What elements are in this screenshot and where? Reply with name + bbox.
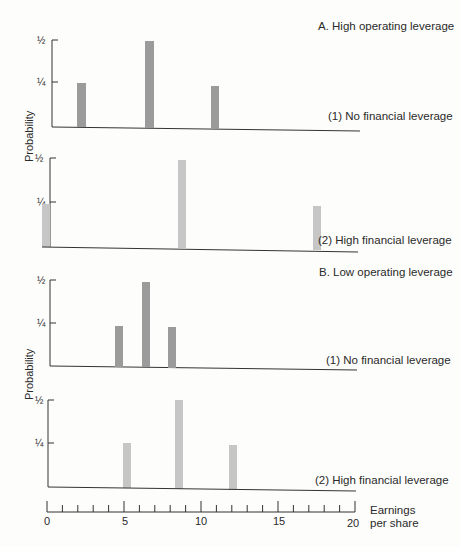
bar	[123, 443, 131, 488]
bar	[168, 327, 176, 368]
x-axis-label-line2: per share	[370, 517, 419, 529]
bar	[178, 160, 186, 248]
y-label-half: ½	[35, 395, 44, 406]
group-b-title: B. Low operating leverage	[319, 266, 453, 278]
panel-b1: ½ ¼ (1) No financial leverage	[37, 275, 451, 370]
x-axis-label-line1: Earnings	[370, 504, 416, 516]
panel-b2-title: (2) High financial leverage	[315, 474, 449, 486]
x-tick-label-10: 10	[195, 515, 207, 527]
bar	[145, 41, 154, 128]
x-tick-label-0: 0	[44, 515, 50, 527]
x-axis-scale: 0 5 10 15 20 Earnings per share	[44, 501, 419, 529]
panel-a1: ½ ¼ (1) No financial leverage	[37, 35, 453, 131]
y-label-half: ½	[37, 35, 46, 46]
x-baseline	[48, 487, 356, 491]
bar	[115, 326, 123, 367]
bar	[42, 204, 50, 247]
x-tick-label-20: 20	[347, 517, 359, 529]
bar	[229, 445, 237, 490]
panel-a2-title: (2) High financial leverage	[318, 234, 452, 246]
x-ticks	[47, 501, 355, 512]
x-tick-label-15: 15	[273, 515, 285, 527]
bar	[211, 86, 219, 129]
y-label-quarter: ¼	[37, 77, 46, 88]
y-label-quarter: ¼	[35, 438, 44, 449]
y-axis-label-lower: Probability	[23, 348, 35, 400]
y-label-half: ½	[37, 275, 46, 286]
group-a-title: A. High operating leverage	[318, 20, 454, 32]
bar	[77, 83, 86, 127]
bar	[142, 282, 150, 367]
panel-a1-title: (1) No financial leverage	[328, 110, 453, 122]
y-axis-label-upper: Probability	[23, 110, 35, 162]
eps-probability-figure: A. High operating leverage ½ ¼ (1) No fi…	[0, 0, 460, 547]
x-baseline	[42, 247, 358, 252]
y-label-quarter: ¼	[37, 318, 46, 329]
bar	[175, 400, 183, 489]
panel-a2: ½ ¼ (2) High financial leverage	[35, 153, 452, 252]
y-label-half: ½	[35, 153, 44, 164]
x-baseline	[52, 127, 360, 131]
panel-b1-title: (1) No financial leverage	[326, 354, 451, 366]
panel-b2: ½ ¼ (2) High financial leverage	[35, 395, 449, 491]
x-baseline	[50, 366, 357, 370]
x-tick-label-5: 5	[122, 515, 128, 527]
